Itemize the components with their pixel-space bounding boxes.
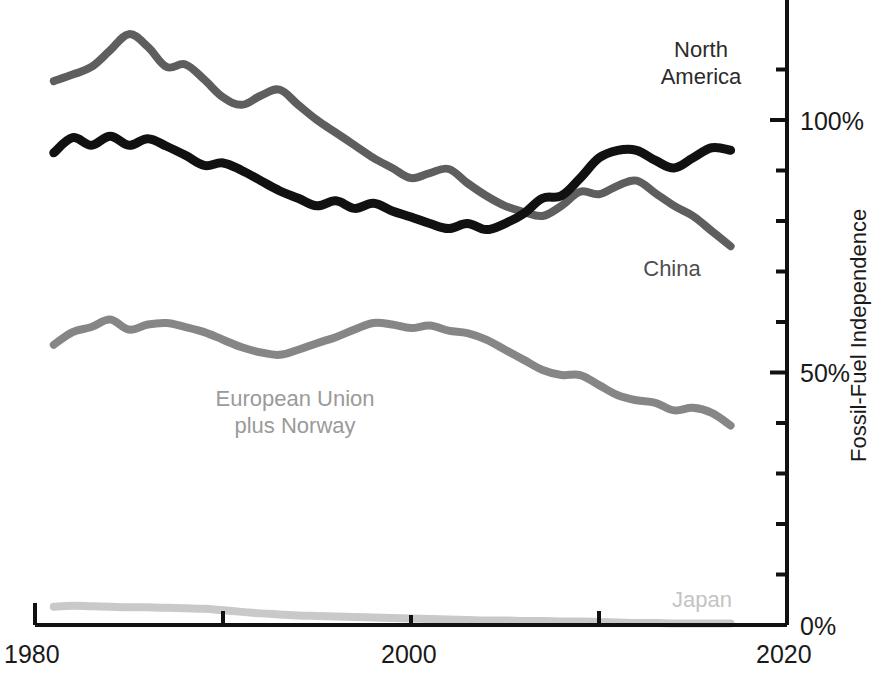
y-axis-tick-label-100: 100%: [800, 107, 864, 136]
series-label-north-america-line2: America: [636, 63, 766, 90]
y-axis-tick-label-0: 0%: [800, 612, 836, 641]
series-label-north-america-line1: North: [636, 36, 766, 63]
y-axis-title: Fossil-Fuel Independence: [846, 209, 872, 462]
series-label-japan: Japan: [642, 586, 762, 613]
chart-plot-area: [0, 0, 892, 682]
series-label-european-union: European Union plus Norway: [170, 385, 420, 439]
axes-layer: [35, 0, 787, 625]
series-line-japan: [54, 606, 731, 624]
chart-container: 100% 50% 0% 1980 2000 2020 Fossil-Fuel I…: [0, 0, 892, 682]
series-label-north-america: North America: [636, 36, 766, 90]
series-label-european-union-line1: European Union: [170, 385, 420, 412]
x-axis-tick-label-1980: 1980: [4, 640, 60, 669]
series-label-china: China: [622, 255, 722, 282]
x-axis-tick-label-2000: 2000: [381, 640, 437, 669]
x-axis-tick-label-2020: 2020: [756, 640, 812, 669]
series-layer: [54, 34, 731, 623]
series-label-european-union-line2: plus Norway: [170, 412, 420, 439]
y-axis-tick-label-50: 50%: [800, 359, 850, 388]
